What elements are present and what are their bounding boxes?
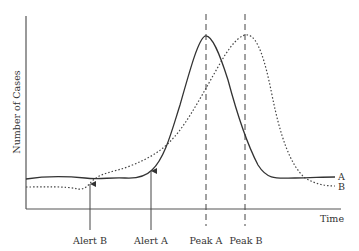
curve-b — [26, 35, 335, 189]
alert-b-label: Alert B — [72, 235, 107, 246]
y-axis-label: Number of Cases — [11, 70, 22, 153]
epidemic-curve-diagram: Number of Cases Time A B Alert B Alert A… — [0, 0, 359, 251]
peak-b-label: Peak B — [229, 235, 262, 246]
peak-a-label: Peak A — [190, 235, 223, 246]
curve-a — [26, 36, 335, 179]
curve-b-label: B — [338, 181, 345, 192]
x-axis-label: Time — [320, 213, 344, 224]
alert-a-label: Alert A — [133, 235, 168, 246]
